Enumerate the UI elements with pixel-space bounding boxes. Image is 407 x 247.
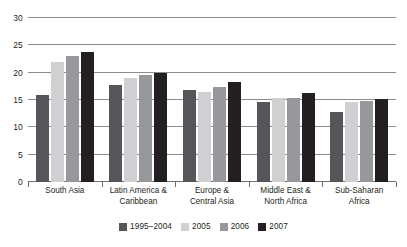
legend-label: 1995–2004: [130, 222, 172, 231]
bar[interactable]: [287, 98, 300, 182]
bar-group: [102, 18, 176, 182]
bar[interactable]: [213, 87, 226, 182]
bar[interactable]: [154, 73, 167, 182]
legend-item[interactable]: 2007: [258, 222, 288, 231]
bar[interactable]: [109, 85, 122, 182]
legend-swatch-icon: [119, 223, 127, 231]
category-label: Middle East &North Africa: [249, 186, 323, 207]
bar[interactable]: [183, 90, 196, 182]
category-label-line: Latin America &: [103, 186, 175, 197]
y-tick-label: 5: [0, 150, 23, 160]
y-tick-label: 15: [0, 95, 23, 105]
bar-group: [28, 18, 102, 182]
category-label: Sub-SaharanAfrica: [322, 186, 396, 207]
bar-group: [322, 18, 396, 182]
legend-item[interactable]: 2005: [181, 222, 211, 231]
category-label: South Asia: [28, 186, 102, 207]
bar-chart: 051015202530 South AsiaLatin America &Ca…: [0, 0, 407, 247]
bar-group: [175, 18, 249, 182]
bar-group: [249, 18, 323, 182]
legend-swatch-icon: [220, 223, 228, 231]
bar[interactable]: [257, 102, 270, 182]
legend-swatch-icon: [181, 223, 189, 231]
bar[interactable]: [51, 62, 64, 182]
legend-item[interactable]: 1995–2004: [119, 222, 172, 231]
x-axis-tick: [396, 182, 397, 187]
y-tick-label: 0: [0, 177, 23, 187]
bar[interactable]: [198, 92, 211, 182]
category-label: Latin America &Caribbean: [102, 186, 176, 207]
legend-swatch-icon: [258, 223, 266, 231]
plot-area: [28, 18, 396, 182]
y-tick-label: 25: [0, 40, 23, 50]
bar[interactable]: [302, 93, 315, 182]
legend-label: 2007: [269, 222, 288, 231]
category-label: Europe &Central Asia: [175, 186, 249, 207]
category-label-line: Central Asia: [176, 197, 248, 208]
chart-legend: 1995–2004200520062007: [0, 222, 407, 231]
bar[interactable]: [330, 112, 343, 182]
bar[interactable]: [139, 75, 152, 182]
legend-label: 2006: [231, 222, 250, 231]
y-tick-label: 10: [0, 122, 23, 132]
category-label-line: Caribbean: [103, 197, 175, 208]
bar-groups: [28, 18, 396, 182]
category-label-line: Sub-Saharan: [323, 186, 395, 197]
bar[interactable]: [36, 95, 49, 182]
legend-label: 2005: [192, 222, 211, 231]
category-label-line: Europe &: [176, 186, 248, 197]
x-axis-category-labels: South AsiaLatin America &CaribbeanEurope…: [28, 186, 396, 207]
y-tick-label: 30: [0, 13, 23, 23]
bar[interactable]: [228, 82, 241, 182]
y-tick-label: 20: [0, 68, 23, 78]
bar[interactable]: [375, 99, 388, 182]
category-label-line: North Africa: [250, 197, 322, 208]
category-label-line: Africa: [323, 197, 395, 208]
category-label-line: Middle East &: [250, 186, 322, 197]
bar[interactable]: [272, 98, 285, 182]
bar[interactable]: [81, 52, 94, 182]
category-label-line: South Asia: [29, 186, 101, 197]
bar[interactable]: [66, 56, 79, 182]
bar[interactable]: [124, 78, 137, 182]
bar[interactable]: [345, 102, 358, 182]
legend-item[interactable]: 2006: [220, 222, 250, 231]
bar[interactable]: [360, 101, 373, 182]
